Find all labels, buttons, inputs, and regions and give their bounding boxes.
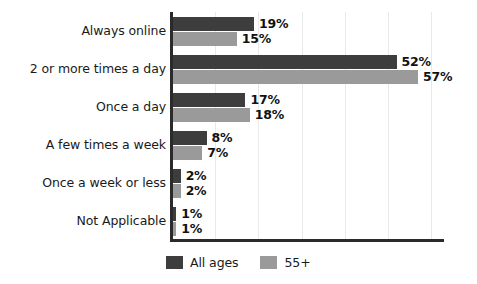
gridline [258, 12, 259, 240]
category-label-3: A few times a week [0, 137, 166, 152]
bar-1-5 [172, 222, 176, 236]
legend-item-0[interactable]: All ages [166, 255, 238, 270]
bar-chart: 19%15%52%57%17%18%8%7%2%2%1%1% Always on… [0, 0, 477, 284]
bar-value-label: 18% [255, 107, 284, 122]
legend-item-1[interactable]: 55+ [260, 255, 310, 270]
bar-value-label: 15% [242, 31, 271, 46]
plot-area: 19%15%52%57%17%18%8%7%2%2%1%1% [172, 12, 444, 240]
bar-0-2 [172, 93, 245, 107]
bar-0-4 [172, 169, 181, 183]
bar-value-label: 19% [259, 16, 288, 31]
x-axis-line [170, 239, 444, 242]
bar-1-1 [172, 70, 418, 84]
bar-1-0 [172, 32, 237, 46]
category-label-5: Not Applicable [0, 213, 166, 228]
bar-0-3 [172, 131, 207, 145]
category-label-1: 2 or more times a day [0, 61, 166, 76]
bar-value-label: 2% [186, 168, 207, 183]
legend-label: 55+ [284, 255, 310, 270]
bar-0-1 [172, 55, 397, 69]
legend-swatch-icon [166, 256, 183, 269]
bar-1-4 [172, 184, 181, 198]
gridline [431, 12, 432, 240]
category-label-2: Once a day [0, 99, 166, 114]
bar-value-label: 1% [181, 206, 202, 221]
bar-value-label: 57% [423, 69, 452, 84]
gridline [345, 12, 346, 240]
bar-value-label: 17% [250, 92, 279, 107]
bar-0-5 [172, 207, 176, 221]
legend-label: All ages [190, 255, 238, 270]
bar-1-3 [172, 146, 202, 160]
gridline [302, 12, 303, 240]
bar-1-2 [172, 108, 250, 122]
gridline [215, 12, 216, 240]
legend-swatch-icon [260, 256, 277, 269]
bar-value-label: 7% [207, 145, 228, 160]
category-label-0: Always online [0, 23, 166, 38]
category-label-4: Once a week or less [0, 175, 166, 190]
bar-value-label: 8% [212, 130, 233, 145]
bar-value-label: 52% [402, 54, 431, 69]
bar-value-label: 1% [181, 221, 202, 236]
y-axis-line [170, 12, 173, 241]
gridline [388, 12, 389, 240]
chart-legend: All ages55+ [166, 252, 333, 272]
bar-0-0 [172, 17, 254, 31]
bar-value-label: 2% [186, 183, 207, 198]
